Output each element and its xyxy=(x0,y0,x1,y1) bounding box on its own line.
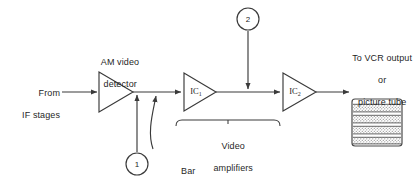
video-amplifiers-line1: Video xyxy=(222,141,245,151)
input-label: From IF stages xyxy=(6,77,60,132)
ic1-label-subscript: 1 xyxy=(199,91,202,97)
block-diagram: From IF stages AM video detector IC1 IC2… xyxy=(0,0,417,186)
video-amplifiers-label: Video amplifiers xyxy=(203,130,253,185)
test-point-1-number: 1 xyxy=(135,161,139,169)
video-amplifiers-line2: amplifiers xyxy=(213,163,253,173)
ic2-label: IC2 xyxy=(289,87,301,97)
ic1-label-text: IC xyxy=(190,86,199,96)
output-destination-label: To VCR output or picture tube xyxy=(342,42,412,119)
output-label-line1: To VCR output xyxy=(352,53,412,63)
video-amplifiers-bracket xyxy=(176,120,280,126)
output-label-line2: or xyxy=(378,75,386,85)
bar-generator-line1: Bar xyxy=(181,166,195,176)
ic1-label: IC1 xyxy=(190,87,202,97)
ic2-label-subscript: 2 xyxy=(298,91,301,97)
bar-generator-label: Bar generator xyxy=(158,155,208,186)
am-video-detector-label: AM video detector xyxy=(91,46,139,101)
test-point-2-number: 2 xyxy=(246,16,250,24)
detector-label-line2: detector xyxy=(104,79,137,89)
input-label-line1: From xyxy=(39,88,60,98)
output-label-line3: picture tube xyxy=(358,97,406,107)
detector-label-line1: AM video xyxy=(101,57,139,67)
bar-generator-lead xyxy=(150,96,156,149)
ic2-label-text: IC xyxy=(289,86,298,96)
input-label-line2: IF stages xyxy=(22,110,60,120)
